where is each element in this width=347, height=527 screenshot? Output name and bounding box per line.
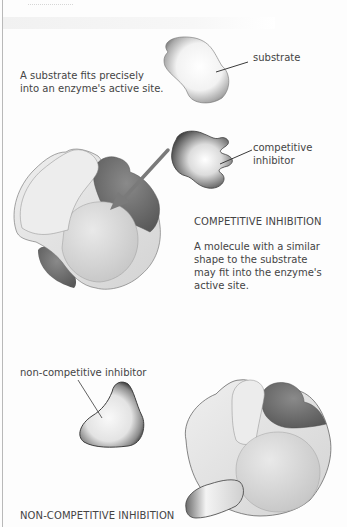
diagram-page: A substrate fits precisely into an enzym… <box>0 0 347 527</box>
enzyme-noncompetitive <box>185 380 331 518</box>
noncompetitive-inhibitor-label: non-competitive inhibitor <box>20 367 146 380</box>
substrate-caption: A substrate fits precisely into an enzym… <box>20 70 163 95</box>
enzyme-competitive <box>14 149 160 289</box>
competitive-description-line-2: shape to the substrate <box>194 253 322 266</box>
substrate-label: substrate <box>253 52 300 65</box>
substrate-caption-line-2: into an enzyme's active site. <box>20 83 163 96</box>
substrate-shape <box>164 37 229 103</box>
noncompetitive-inhibition-heading: NON-COMPETITIVE INHIBITION <box>20 510 174 521</box>
competitive-inhibitor-label: competitive inhibitor <box>253 142 312 167</box>
competitive-description-line-4: active site. <box>194 279 322 292</box>
competitive-inhibitor-label-line-2: inhibitor <box>253 155 312 168</box>
noncompetitive-inhibitor-leader-line <box>78 380 102 418</box>
competitive-inhibition-heading: COMPETITIVE INHIBITION <box>194 216 322 227</box>
competitive-inhibitor-label-line-1: competitive <box>253 142 312 155</box>
competitive-inhibitor-shape <box>172 131 233 188</box>
noncompetitive-inhibitor-shape <box>80 382 144 447</box>
competitive-description-line-3: may fit into the enzyme's <box>194 266 322 279</box>
competitive-inhibition-description: A molecule with a similar shape to the s… <box>194 240 322 292</box>
competitive-description-line-1: A molecule with a similar <box>194 240 322 253</box>
substrate-caption-line-1: A substrate fits precisely <box>20 70 163 83</box>
